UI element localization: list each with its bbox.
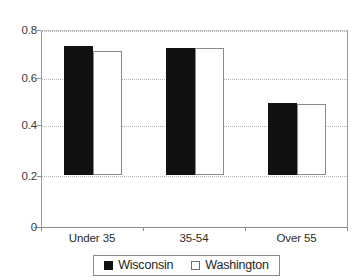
bar-chart: 0.8 0.6 0.4 0.2 0 Under 35 <box>0 0 361 280</box>
bar-wisconsin-over-55[interactable] <box>268 103 297 175</box>
y-tick-label-0.8: 0.8 <box>3 25 37 36</box>
legend-label-washington: Washington <box>205 259 269 272</box>
x-tick-mark-left <box>41 227 42 231</box>
legend-swatch-filled-icon <box>104 261 113 270</box>
bar-washington-over-55[interactable] <box>297 104 326 175</box>
legend-item-washington[interactable]: Washington <box>191 259 269 272</box>
bar-washington-35-54[interactable] <box>195 48 224 175</box>
bar-group-under-35 <box>41 0 143 228</box>
bar-washington-under-35[interactable] <box>93 51 122 175</box>
bar-group-over-55 <box>245 0 348 228</box>
x-tick-mark-1 <box>143 227 144 231</box>
x-label-under-35: Under 35 <box>41 232 143 245</box>
bar-wisconsin-35-54[interactable] <box>166 48 195 175</box>
bar-wisconsin-under-35[interactable] <box>64 46 93 175</box>
x-tick-mark-2 <box>245 227 246 231</box>
legend: Wisconsin Washington <box>93 255 280 276</box>
y-axis: 0.8 0.6 0.4 0.2 0 <box>0 0 37 280</box>
legend-swatch-hollow-icon <box>191 261 200 270</box>
x-label-35-54: 35-54 <box>143 232 245 245</box>
x-label-over-55: Over 55 <box>245 232 348 245</box>
y-tick-label-0.6: 0.6 <box>3 73 37 84</box>
legend-label-wisconsin: Wisconsin <box>118 259 173 272</box>
legend-item-wisconsin[interactable]: Wisconsin <box>104 259 173 272</box>
y-tick-label-0.4: 0.4 <box>3 120 37 131</box>
y-tick-label-0: 0 <box>3 222 37 233</box>
x-tick-mark-right <box>347 227 348 231</box>
y-tick-label-0.2: 0.2 <box>3 171 37 182</box>
bar-group-35-54 <box>143 0 245 228</box>
